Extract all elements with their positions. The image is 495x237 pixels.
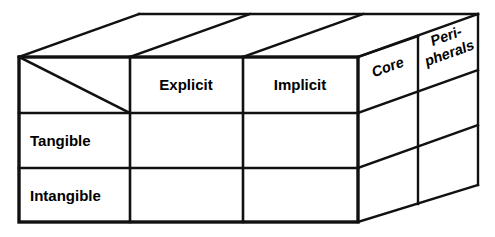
row-header-tangible: Tangible [30, 132, 91, 149]
cube-diagram: Explicit Implicit Tangible Intangible Co… [0, 0, 495, 237]
row-header-intangible: Intangible [30, 187, 101, 204]
diagram-canvas: Explicit Implicit Tangible Intangible Co… [0, 0, 495, 237]
column-header-implicit: Implicit [274, 76, 327, 93]
column-header-explicit: Explicit [159, 76, 212, 93]
